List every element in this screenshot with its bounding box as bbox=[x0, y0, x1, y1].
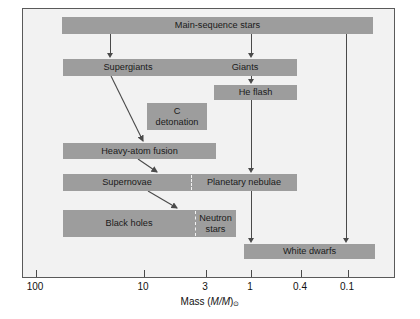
node-label-neutron-stars: Neutron stars bbox=[195, 210, 236, 237]
node-white-dwarfs: White dwarfs bbox=[244, 244, 375, 259]
solar-symbol-icon: ⊙ bbox=[233, 300, 239, 307]
node-label-supergiants: Supergiants bbox=[63, 59, 193, 76]
divider-black-holes-neutron-stars bbox=[195, 211, 196, 236]
stellar-evolution-diagram: Main-sequence starsSupergiantsGiantsHe f… bbox=[0, 0, 420, 319]
axis-tick-label-0.4: 0.4 bbox=[293, 281, 307, 292]
connector-ms-to-white-dwarfs bbox=[346, 34, 347, 239]
connector-ms-to-supergiants bbox=[110, 34, 111, 54]
arrowhead-he-flash-to-planetary bbox=[248, 168, 254, 173]
connector-ms-to-giants bbox=[251, 34, 252, 54]
connector-he-flash-to-planetary bbox=[251, 100, 252, 169]
arrowhead-ms-to-supergiants bbox=[107, 53, 113, 58]
node-label-giants: Giants bbox=[193, 59, 297, 76]
node-label-he-flash: He flash bbox=[239, 87, 273, 98]
connector-planetary-to-white-dwarfs bbox=[251, 191, 252, 239]
connector-supergiants-to-heavy-atom-fusion bbox=[111, 76, 143, 141]
arrowhead-ms-to-giants bbox=[248, 53, 254, 58]
axis-title: Mass (M/M)⊙ bbox=[0, 296, 420, 308]
axis-tick-0.1 bbox=[348, 270, 349, 277]
axis-tick-10 bbox=[144, 270, 145, 277]
node-main-sequence-stars: Main-sequence stars bbox=[62, 17, 373, 34]
axis-tick-label-3: 3 bbox=[202, 281, 208, 292]
node-label-black-holes: Black holes bbox=[63, 210, 195, 237]
divider-supernovae-planetary-nebulae bbox=[191, 175, 192, 190]
axis-tick-label-1: 1 bbox=[247, 281, 253, 292]
axis-tick-label-10: 10 bbox=[137, 281, 148, 292]
connector-supernovae-to-neutron-stars bbox=[148, 191, 177, 208]
arrowhead-planetary-to-white-dwarfs bbox=[248, 238, 254, 243]
axis-tick-label-0.1: 0.1 bbox=[340, 281, 354, 292]
node-label-supernovae: Supernovae bbox=[63, 174, 191, 191]
node-label-c-detonation: C detonation bbox=[156, 106, 199, 128]
node-c-detonation: C detonation bbox=[147, 103, 207, 130]
axis-tick-0.4 bbox=[301, 270, 302, 277]
node-label-main-sequence-stars: Main-sequence stars bbox=[175, 20, 260, 31]
node-supergiants-giants: SupergiantsGiants bbox=[63, 59, 297, 76]
axis-tick-1 bbox=[251, 270, 252, 277]
node-supernovae-planetary-nebulae: SupernovaePlanetary nebulae bbox=[63, 174, 297, 191]
axis-title-variable: M/M bbox=[211, 296, 230, 307]
connector-heavy-atom-fusion-to-supernovae bbox=[138, 159, 157, 172]
node-label-white-dwarfs: White dwarfs bbox=[283, 246, 336, 257]
node-he-flash: He flash bbox=[214, 85, 297, 100]
axis-tick-label-100: 100 bbox=[27, 281, 44, 292]
axis-tick-100 bbox=[36, 270, 37, 277]
node-black-holes-neutron-stars: Black holesNeutron stars bbox=[63, 210, 236, 237]
node-label-planetary-nebulae: Planetary nebulae bbox=[191, 174, 297, 191]
arrowhead-ms-to-white-dwarfs bbox=[343, 238, 349, 243]
node-label-heavy-atom-fusion: Heavy-atom fusion bbox=[101, 146, 178, 157]
axis-tick-3 bbox=[206, 270, 207, 277]
axis-title-prefix: Mass ( bbox=[181, 296, 211, 307]
arrowhead-giants-to-he-flash bbox=[248, 79, 254, 84]
node-heavy-atom-fusion: Heavy-atom fusion bbox=[63, 143, 216, 159]
plot-frame: Main-sequence starsSupergiantsGiantsHe f… bbox=[22, 8, 395, 278]
